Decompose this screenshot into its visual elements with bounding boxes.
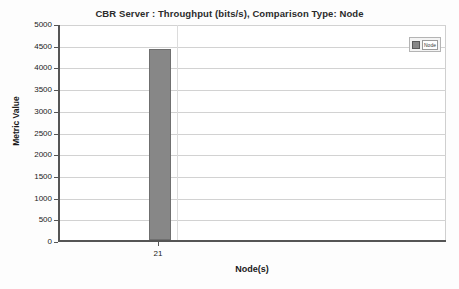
y-tick-mark [54,112,58,113]
plot-area [58,25,446,242]
y-tick-mark [54,155,58,156]
chart-screenshot: CBR Server : Throughput (bits/s), Compar… [0,0,459,289]
x-tick-label: 21 [138,249,178,258]
y-tick-mark [54,220,58,221]
bar[interactable] [149,49,171,240]
y-tick-label: 5000 [6,20,52,29]
y-tick-label: 4000 [6,63,52,72]
y-tick-mark [54,68,58,69]
plot-border [60,25,446,240]
y-tick-label: 500 [6,215,52,224]
chart-legend[interactable]: Node [409,37,441,52]
gridline-horizontal [60,47,446,48]
y-tick-mark [54,47,58,48]
y-tick-mark [54,199,58,200]
x-axis-title: Node(s) [58,264,446,274]
y-tick-mark [54,177,58,178]
y-tick-label: 4500 [6,42,52,51]
gridline-horizontal [60,90,446,91]
gridline-horizontal [60,68,446,69]
y-tick-label: 2000 [6,150,52,159]
y-tick-label: 2500 [6,129,52,138]
y-tick-label: 3500 [6,85,52,94]
y-tick-label: 0 [6,237,52,246]
y-tick-mark [54,90,58,91]
gridline-horizontal [60,220,446,221]
y-tick-mark [54,134,58,135]
legend-label: Node [422,40,438,50]
gridline-horizontal [60,155,446,156]
gridline-horizontal [60,177,446,178]
gridline-horizontal [60,25,446,26]
gridline-horizontal [60,112,446,113]
gridline-horizontal [60,134,446,135]
y-tick-label: 3000 [6,107,52,116]
plot-inner [60,25,446,240]
y-axis-title: Metric Value [11,66,21,176]
y-tick-mark [54,242,58,243]
y-tick-label: 1000 [6,194,52,203]
gridline-vertical [177,25,178,240]
chart-title: CBR Server : Throughput (bits/s), Compar… [0,8,459,19]
y-tick-mark [54,25,58,26]
x-tick-mark [158,242,159,246]
legend-entry[interactable]: Node [412,40,438,50]
y-tick-label: 1500 [6,172,52,181]
gridline-horizontal [60,199,446,200]
legend-swatch-icon [412,41,420,49]
